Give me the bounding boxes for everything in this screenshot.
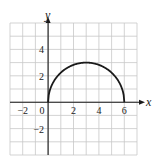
y-tick-label: −2 <box>33 124 44 135</box>
grid-lines <box>10 23 137 155</box>
axes <box>10 17 145 155</box>
x-tick-label: 4 <box>96 105 101 116</box>
y-tick-label: 4 <box>39 44 44 55</box>
tick-labels: −2024642−2 <box>17 44 126 134</box>
x-tick-label: −2 <box>17 105 28 116</box>
x-axis-arrow-icon <box>139 100 145 105</box>
x-tick-label: 6 <box>122 105 127 116</box>
x-tick-label: 2 <box>71 105 76 116</box>
y-tick-label: 2 <box>39 71 44 82</box>
x-axis-label: x <box>145 95 152 109</box>
y-axis-label: y <box>44 8 51 22</box>
chart: −2024642−2 x y <box>0 0 159 162</box>
x-tick-label: 0 <box>40 105 45 116</box>
